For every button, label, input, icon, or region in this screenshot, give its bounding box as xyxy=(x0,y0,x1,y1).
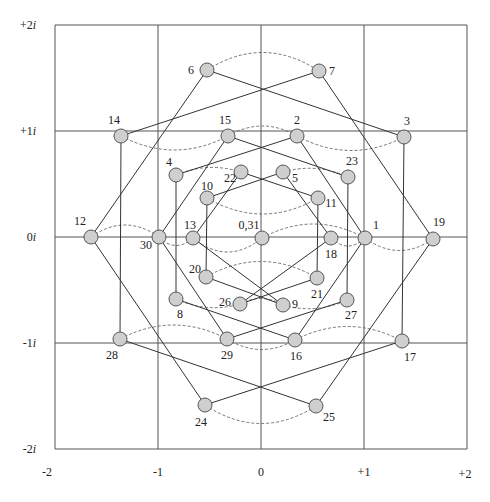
node-circle xyxy=(290,129,304,143)
y-tick-label: +1i xyxy=(20,124,36,138)
node-label: 14 xyxy=(108,113,120,127)
node-label: 13 xyxy=(184,218,196,232)
edge-line xyxy=(207,70,404,137)
node-circle xyxy=(220,332,234,346)
edge-line xyxy=(91,237,205,405)
node-label: 4 xyxy=(166,155,172,169)
node-label: 11 xyxy=(325,196,337,210)
y-tick-label: -2i xyxy=(23,442,36,456)
node-label: 18 xyxy=(325,247,337,261)
nodes: 6714152342252310111230130,31181192021826… xyxy=(74,63,445,429)
node-label: 25 xyxy=(323,410,335,424)
node-circle xyxy=(169,168,183,182)
node-circle xyxy=(276,165,290,179)
node-circle xyxy=(113,332,127,346)
dashed-arc xyxy=(121,136,228,150)
node-label: 15 xyxy=(219,113,231,127)
node-label: 30 xyxy=(140,238,152,252)
node-label: 7 xyxy=(329,64,335,78)
node-circle xyxy=(324,231,338,245)
node-label: 12 xyxy=(74,214,86,228)
x-tick-label: -2 xyxy=(42,465,52,479)
dashed-arc xyxy=(295,326,402,341)
node-circle xyxy=(152,230,166,244)
node-circle xyxy=(186,231,200,245)
dashed-arc xyxy=(193,238,262,252)
edge-line xyxy=(205,341,402,405)
node-circle xyxy=(198,398,212,412)
node-label: 5 xyxy=(292,171,298,185)
node-circle xyxy=(114,129,128,143)
edge-line xyxy=(297,136,365,238)
node-circle xyxy=(221,129,235,143)
node-label: 6 xyxy=(188,63,194,77)
node-label: 29 xyxy=(221,348,233,362)
node-label: 21 xyxy=(311,287,323,301)
edge-line xyxy=(120,136,121,339)
edge-line xyxy=(319,71,433,239)
edge-line xyxy=(317,198,318,278)
node-circle xyxy=(395,334,409,348)
edge-line xyxy=(402,137,404,341)
dashed-arc xyxy=(207,52,319,71)
node-label: 1 xyxy=(373,218,379,232)
dashed-arc xyxy=(207,198,318,214)
dashed-arc xyxy=(297,136,404,151)
node-label: 16 xyxy=(290,349,302,363)
edge-line xyxy=(283,172,331,238)
edge-line xyxy=(316,239,433,406)
x-tick-label: +2 xyxy=(459,467,472,481)
node-label: 20 xyxy=(189,262,201,276)
complex-plane-diagram: -2-10+1+2+2i+1i0i-1i-2i 6714152342252310… xyxy=(0,0,490,502)
node-label: 19 xyxy=(433,215,445,229)
node-circle xyxy=(199,270,213,284)
x-tick-label: +1 xyxy=(358,465,371,479)
node-label: 27 xyxy=(345,308,357,322)
node-circle xyxy=(312,64,326,78)
edge-line xyxy=(347,177,348,300)
node-label: 8 xyxy=(177,307,183,321)
node-circle xyxy=(200,63,214,77)
node-circle xyxy=(234,165,248,179)
dashed-arc xyxy=(365,238,433,251)
node-circle xyxy=(233,297,247,311)
node-label: 10 xyxy=(201,179,213,193)
node-label: 23 xyxy=(346,154,358,168)
node-label: 28 xyxy=(106,348,118,362)
y-tick-label: 0i xyxy=(27,230,36,244)
node-label: 0,31 xyxy=(239,218,260,232)
node-circle xyxy=(397,130,411,144)
node-circle xyxy=(310,271,324,285)
edge-line xyxy=(159,237,227,339)
x-tick-label: -1 xyxy=(153,465,163,479)
node-circle xyxy=(426,232,440,246)
node-label: 3 xyxy=(404,114,410,128)
node-circle xyxy=(276,298,290,312)
node-label: 24 xyxy=(195,415,207,429)
node-label: 9 xyxy=(292,297,298,311)
node-label: 22 xyxy=(224,171,236,185)
dashed-arc xyxy=(120,325,227,339)
y-tick-label: +2i xyxy=(20,18,36,32)
edge-line xyxy=(91,70,207,237)
node-label: 26 xyxy=(219,295,231,309)
x-tick-label: 0 xyxy=(258,465,264,479)
node-circle xyxy=(200,191,214,205)
node-label: 17 xyxy=(404,350,416,364)
edge-line xyxy=(120,339,316,406)
dashed-arc xyxy=(91,225,159,237)
node-circle xyxy=(288,333,302,347)
node-circle xyxy=(169,292,183,306)
node-circle xyxy=(341,170,355,184)
node-circle xyxy=(84,230,98,244)
edge-line xyxy=(206,198,207,277)
axis-labels: -2-10+1+2+2i+1i0i-1i-2i xyxy=(20,18,472,481)
node-circle xyxy=(340,293,354,307)
y-tick-label: -1i xyxy=(23,336,36,350)
node-circle xyxy=(309,399,323,413)
node-label: 2 xyxy=(294,113,300,127)
node-circle xyxy=(255,231,269,245)
node-circle xyxy=(311,191,325,205)
node-circle xyxy=(358,231,372,245)
dashed-arc xyxy=(262,224,365,238)
